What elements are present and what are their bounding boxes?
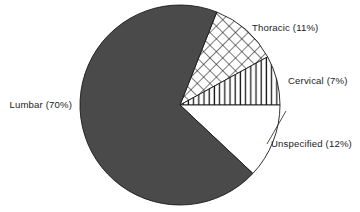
pie-chart-figure: Thoracic (11%)Cervical (7%)Unspecified (…: [0, 0, 360, 212]
pie-label-cervical: Cervical (7%): [288, 75, 348, 86]
pie-chart-canvas: Thoracic (11%)Cervical (7%)Unspecified (…: [0, 0, 360, 212]
pie-slices-group: [80, 5, 280, 205]
pie-label-lumbar: Lumbar (70%): [9, 99, 72, 110]
pie-label-thoracic: Thoracic (11%): [252, 22, 318, 33]
pie-label-unspecified: Unspecified (12%): [271, 138, 352, 149]
